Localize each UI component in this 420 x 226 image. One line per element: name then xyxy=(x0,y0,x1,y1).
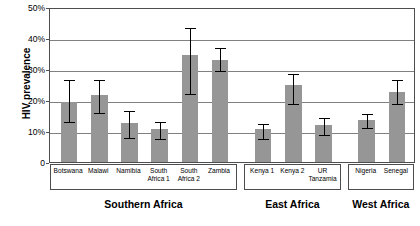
y-tick-mark-0 xyxy=(46,163,49,164)
error-cap-upper-kenya-1 xyxy=(258,124,269,125)
category-label-line1: Zambia xyxy=(208,167,230,174)
y-tick-label-4: 40% xyxy=(5,35,45,44)
error-cap-lower-malawi xyxy=(94,113,105,114)
error-cap-lower-kenya-1 xyxy=(258,139,269,140)
hiv-prevalence-bar-chart: HIV prevalence 010%20%30%40%50% Botswana… xyxy=(0,0,420,226)
error-cap-upper-senegal xyxy=(392,80,403,81)
error-cap-lower-namibia xyxy=(124,138,135,139)
region-title-southern-africa: Southern Africa xyxy=(74,198,214,210)
error-cap-lower-senegal xyxy=(392,104,403,105)
error-cap-lower-nigeria xyxy=(362,128,373,129)
error-cap-upper-namibia xyxy=(124,111,135,112)
error-bar-kenya-2 xyxy=(293,74,294,103)
error-cap-lower-south-africa-2 xyxy=(185,94,196,95)
y-tick-label-0: 0 xyxy=(5,159,45,168)
category-label-line1: UR xyxy=(318,167,328,174)
y-tick-label-2: 20% xyxy=(5,97,45,106)
error-bar-kenya-1 xyxy=(263,124,264,140)
error-cap-lower-ur-tanzamia xyxy=(319,135,330,136)
error-cap-lower-zambia xyxy=(215,71,226,72)
error-bar-south-africa-1 xyxy=(160,122,161,139)
region-title-west-africa: West Africa xyxy=(311,198,420,210)
error-cap-upper-botswana xyxy=(64,80,75,81)
gridline-30 xyxy=(50,71,414,72)
y-tick-label-1: 10% xyxy=(5,128,45,137)
error-bar-botswana xyxy=(69,80,70,122)
category-label-line2: Tanzamia xyxy=(297,175,349,183)
error-bar-namibia xyxy=(129,111,130,137)
error-bar-malawi xyxy=(99,80,100,113)
bar-zambia xyxy=(212,60,229,162)
error-bar-ur-tanzamia xyxy=(324,118,325,135)
error-cap-lower-botswana xyxy=(64,122,75,123)
error-cap-upper-nigeria xyxy=(362,114,373,115)
error-bar-senegal xyxy=(397,80,398,103)
error-cap-lower-kenya-2 xyxy=(288,104,299,105)
y-tick-label-5: 50% xyxy=(5,4,45,13)
error-cap-upper-ur-tanzamia xyxy=(319,118,330,119)
error-cap-upper-south-africa-2 xyxy=(185,28,196,29)
error-cap-upper-kenya-2 xyxy=(288,74,299,75)
error-cap-upper-malawi xyxy=(94,80,105,81)
category-label-senegal: Senegal xyxy=(370,167,420,175)
error-bar-nigeria xyxy=(367,114,368,128)
error-cap-upper-zambia xyxy=(215,48,226,49)
error-bar-zambia xyxy=(220,48,221,71)
error-cap-lower-south-africa-1 xyxy=(155,139,166,140)
error-cap-upper-south-africa-1 xyxy=(155,122,166,123)
gridline-40 xyxy=(50,40,414,41)
error-bar-south-africa-2 xyxy=(190,28,191,95)
plot-area xyxy=(49,8,415,163)
y-tick-label-3: 30% xyxy=(5,66,45,75)
category-label-line2: Africa 2 xyxy=(163,175,215,183)
category-label-line1: Senegal xyxy=(384,167,408,174)
